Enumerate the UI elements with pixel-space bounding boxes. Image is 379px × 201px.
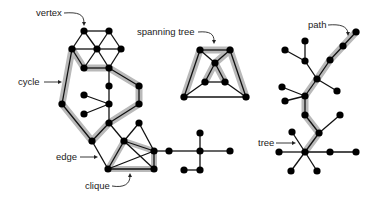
vertex xyxy=(313,75,320,82)
vertex xyxy=(333,87,340,94)
clique-arrow xyxy=(112,176,130,187)
clique-highlight xyxy=(108,141,154,169)
vertex xyxy=(315,129,322,136)
vertex xyxy=(313,167,320,174)
vertex xyxy=(281,97,288,104)
vertex xyxy=(80,64,87,71)
arrowhead-icon xyxy=(94,155,98,159)
vertex xyxy=(68,45,75,52)
vertex xyxy=(120,137,127,144)
vertex xyxy=(201,78,208,85)
vertex xyxy=(165,147,172,154)
vertex xyxy=(104,165,111,172)
vertex xyxy=(326,56,333,63)
vertex xyxy=(301,37,308,44)
vertex xyxy=(352,148,359,155)
vertex xyxy=(180,93,187,100)
vertex xyxy=(105,100,112,107)
vertex xyxy=(352,28,359,35)
arrowhead-icon xyxy=(128,173,132,177)
arrowhead-icon xyxy=(212,40,216,44)
vertex xyxy=(339,42,346,49)
vertex xyxy=(80,110,87,117)
vertex xyxy=(135,100,142,107)
vertex xyxy=(242,93,249,100)
vertex xyxy=(105,82,112,89)
vertex-arrow xyxy=(64,13,84,23)
graph-theory-diagram: vertex cycle edge clique xyxy=(0,0,379,201)
vertex xyxy=(93,45,100,52)
vertex xyxy=(278,83,285,90)
arrowhead-icon xyxy=(292,141,296,145)
vertex xyxy=(196,129,203,136)
path-highlight xyxy=(305,32,356,152)
vertex xyxy=(281,46,288,53)
vertex xyxy=(275,148,282,155)
vertex xyxy=(105,64,112,71)
vertex xyxy=(288,128,295,135)
vertex xyxy=(301,92,308,99)
left-graph: vertex cycle edge clique xyxy=(18,7,234,191)
clique-label: clique xyxy=(85,180,110,191)
vertex xyxy=(226,46,233,53)
path-arrow xyxy=(328,25,348,33)
vertex xyxy=(150,147,157,154)
vertex xyxy=(135,82,142,89)
vertex xyxy=(180,166,187,173)
vertex xyxy=(196,166,203,173)
cycle-highlight xyxy=(62,49,139,141)
vertex xyxy=(301,111,308,118)
vertex xyxy=(336,111,343,118)
vertex xyxy=(150,165,157,172)
spanning-tree-label: spanning tree xyxy=(137,26,195,37)
vertex xyxy=(287,167,294,174)
spanning-tree-graph: spanning tree xyxy=(137,26,250,101)
vertex-label: vertex xyxy=(36,7,62,18)
vertex xyxy=(326,148,333,155)
vertex xyxy=(80,91,87,98)
cycle-label: cycle xyxy=(18,76,40,87)
arrowhead-icon xyxy=(82,22,86,26)
vertex xyxy=(301,148,308,155)
vertex xyxy=(88,137,95,144)
arrowhead-icon xyxy=(58,80,62,84)
vertex xyxy=(80,27,87,34)
vertex xyxy=(105,119,112,126)
vertex xyxy=(117,45,124,52)
vertex xyxy=(196,147,203,154)
vertex xyxy=(211,59,218,66)
vertex xyxy=(221,78,228,85)
vertex xyxy=(135,119,142,126)
vertex xyxy=(226,147,233,154)
tree-with-path: path tree xyxy=(258,19,360,175)
edge-label: edge xyxy=(56,151,77,162)
vertex xyxy=(58,100,65,107)
spanning-tree-arrow xyxy=(198,32,214,41)
vertex xyxy=(196,46,203,53)
path-label: path xyxy=(308,19,327,30)
vertex xyxy=(301,57,308,64)
vertex xyxy=(105,27,112,34)
tree-label: tree xyxy=(258,137,274,148)
